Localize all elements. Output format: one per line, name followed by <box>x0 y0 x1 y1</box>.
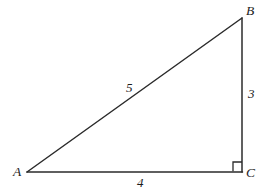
triangle-drawing <box>0 0 268 191</box>
side-length-label-vertical: 3 <box>248 87 255 100</box>
vertex-label-a: A <box>13 165 21 179</box>
segment-hypotenuse-ab <box>27 18 242 172</box>
vertex-label-c: C <box>246 166 255 180</box>
right-angle-marker-icon <box>233 162 242 171</box>
vertex-label-b: B <box>246 4 254 18</box>
side-length-label-hypotenuse: 5 <box>126 81 133 94</box>
side-length-label-base: 4 <box>137 176 144 189</box>
triangle-diagram: A B C 5 3 4 <box>0 0 268 191</box>
